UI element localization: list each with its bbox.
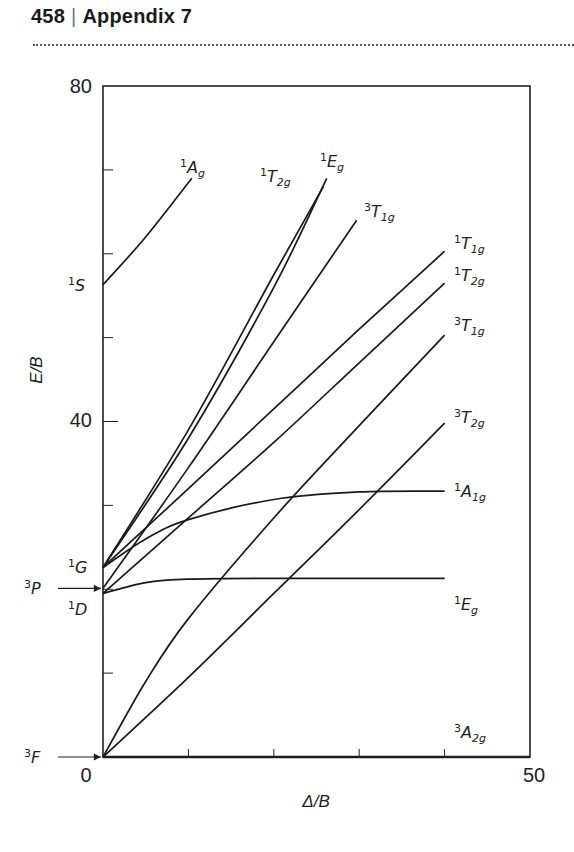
curve-1eg-g- — [103, 178, 327, 567]
term-label-3a2g: 3A2g — [454, 722, 486, 745]
x-axis-title: Δ/B — [301, 792, 329, 811]
term-label-1t2g: 1T2g — [454, 265, 485, 288]
term-label-1a1g: 1A1g — [454, 481, 486, 504]
free-ion-3P-label: 3P — [24, 578, 41, 598]
y-tick-80: 80 — [70, 75, 92, 97]
curve-1eg — [103, 578, 445, 593]
term-label-3t1g-f-: 3T1g — [454, 315, 485, 338]
y-tick-40: 40 — [70, 409, 92, 431]
term-label-1ag: 1Ag — [180, 157, 205, 180]
free-ion-1D-label: 1D — [68, 599, 87, 619]
term-label-3t1g-p-: 3T1g — [364, 201, 395, 224]
y-axis-title: E/B — [27, 356, 46, 383]
curve-1t2g-g- — [103, 187, 323, 568]
curve-1t2g — [103, 283, 445, 593]
curve-3t1g-f- — [103, 335, 445, 757]
free-ion-1S-label: 1S — [68, 275, 85, 295]
curve-1ag — [103, 178, 192, 285]
term-label-1eg-g-: 1Eg — [320, 151, 344, 174]
term-label-1t2g-g-: 1T2g — [260, 166, 291, 189]
x-tick-0: 0 — [80, 764, 91, 786]
curves — [103, 178, 445, 757]
term-label-3t2g: 3T2g — [454, 407, 485, 430]
x-tick-50: 50 — [523, 764, 545, 786]
free-ion-1G-label: 1G — [68, 557, 87, 577]
free-ion-3F-label: 3F — [24, 747, 41, 767]
curve-3t2g — [103, 423, 445, 757]
tanabe-sugano-chart: 3F3P1D1G1S3A2g3T2g3T1g1Eg1A1g1T2g1T1g3T1… — [0, 0, 574, 852]
term-label-1t1g: 1T1g — [454, 233, 485, 256]
term-label-1eg: 1Eg — [454, 594, 478, 617]
curve-1a1g — [103, 491, 445, 567]
curve-1t1g — [103, 251, 445, 567]
